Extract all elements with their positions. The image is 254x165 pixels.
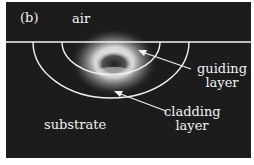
panel-label: (b): [20, 11, 38, 24]
cladding-layer-label-line1: cladding: [164, 105, 220, 118]
cladding-layer-label-line2: layer: [164, 119, 220, 132]
air-label: air: [72, 12, 90, 25]
guiding-layer-label-line2: layer: [196, 76, 248, 89]
guiding-layer-label-line1: guiding: [196, 62, 248, 75]
mode-field-figure: (b) air substrate guiding layer cladding…: [6, 2, 251, 158]
substrate-label: substrate: [44, 118, 106, 131]
